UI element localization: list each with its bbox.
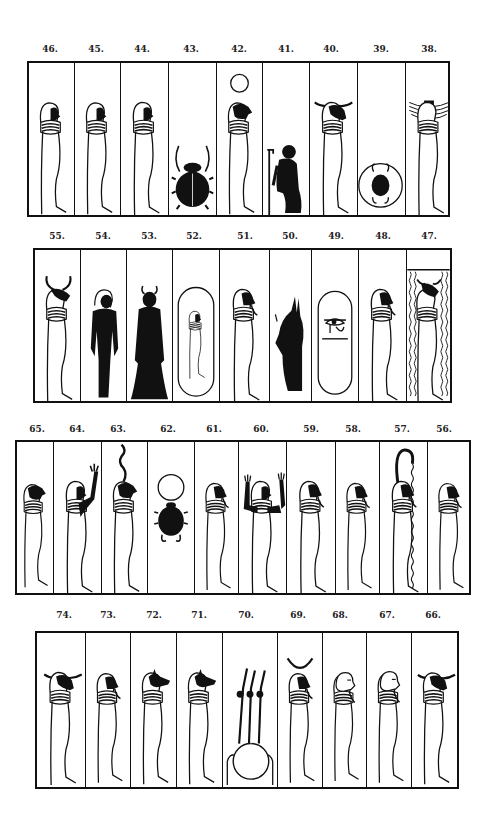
row-4-labels: 74. 73. 72. 71. 70. 69. 68. 67. 66. (0, 610, 490, 624)
standing-black-robed-figure-icon (127, 250, 172, 401)
figure-42 (217, 63, 263, 215)
figure-40 (310, 63, 358, 215)
figure-label: 62. (160, 424, 176, 434)
figure-label: 39. (373, 44, 389, 54)
arms-rising-from-disk-icon (223, 633, 277, 787)
row-1-labels: 46. 45. 44. 43. 42. 41. 40. 39. 38. (0, 44, 490, 58)
figure-label: 41. (278, 44, 294, 54)
mummy-falcon-sun-disk-icon (217, 63, 262, 215)
figure-38 (406, 63, 452, 215)
figure-71 (177, 633, 223, 787)
figure-label: 72. (146, 610, 162, 620)
figure-41 (263, 63, 310, 215)
figure-label: 48. (375, 231, 391, 241)
scarab-with-sun-disk-icon (148, 442, 194, 593)
figure-label: 43. (183, 44, 199, 54)
figure-57 (380, 442, 428, 593)
figure-52 (173, 250, 220, 401)
figure-row-4: 74. 73. 72. 71. 70. 69. 68. 67. 66. (0, 610, 490, 790)
figure-label: 45. (88, 44, 104, 54)
figure-58 (336, 442, 380, 593)
figure-44 (121, 63, 169, 215)
figure-70 (223, 633, 278, 787)
figure-label: 47. (421, 231, 437, 241)
figure-label: 70. (238, 610, 254, 620)
figure-51 (220, 250, 270, 401)
mummy-with-serpent-icon (380, 442, 427, 593)
figure-55 (35, 250, 81, 401)
row-3-frame (15, 440, 471, 595)
figure-label: 68. (332, 610, 348, 620)
figure-label: 55. (49, 231, 65, 241)
figure-label: 46. (42, 44, 58, 54)
figure-label: 61. (206, 424, 222, 434)
mummy-ram-horns-icon (310, 63, 357, 215)
mummy-jackal-head-icon (131, 633, 176, 787)
figure-74 (37, 633, 86, 787)
figure-label: 63. (110, 424, 126, 434)
row-3-labels: 65. 64. 63. 62. 61. 60. 59. 58. 57. 56. (0, 424, 490, 438)
figure-label: 42. (231, 44, 247, 54)
figure-label: 64. (69, 424, 85, 434)
figure-50 (270, 250, 312, 401)
mummy-winged-headdress-icon (406, 63, 452, 215)
standing-black-figure-icon (81, 250, 126, 401)
figure-label: 51. (237, 231, 253, 241)
figure-row-1: 46. 45. 44. 43. 42. 41. 40. 39. 38. (0, 44, 490, 219)
mummy-bearded-head-icon (86, 633, 130, 787)
figure-label: 57. (394, 424, 410, 434)
figure-60 (239, 442, 287, 593)
eye-in-cartouche-icon (312, 250, 358, 401)
figure-65 (17, 442, 54, 593)
row-2-labels: 55. 54. 53. 52. 51. 50. 49. 48. 47. (0, 231, 490, 245)
figure-72 (131, 633, 177, 787)
figure-46 (29, 63, 75, 215)
mummy-falcon-head-icon (17, 442, 53, 593)
figure-61 (195, 442, 239, 593)
figure-label: 40. (323, 44, 339, 54)
row-2-frame (33, 248, 452, 403)
mummy-bearded-head-icon (195, 442, 238, 593)
mummy-arms-raised-icon (239, 442, 286, 593)
figure-53 (127, 250, 173, 401)
figure-label: 52. (186, 231, 202, 241)
mummy-bearded-head-icon (220, 250, 269, 401)
mummy-crescent-crown-icon (278, 633, 322, 787)
figure-64 (54, 442, 102, 593)
figure-row-2: 55. 54. 53. 52. 51. 50. 49. 48. 47. (0, 231, 490, 406)
figure-49 (312, 250, 359, 401)
mummy-jackal-head-icon (177, 633, 222, 787)
figure-label: 73. (100, 610, 116, 620)
figure-43 (169, 63, 217, 215)
mummy-arm-raised-icon (54, 442, 101, 593)
figure-54 (81, 250, 127, 401)
figure-label: 65. (29, 424, 45, 434)
figure-48 (359, 250, 407, 401)
row-1-frame (27, 61, 450, 217)
figure-label: 49. (328, 231, 344, 241)
figure-47 (407, 250, 450, 401)
scarab-icon (169, 63, 216, 215)
figure-73 (86, 633, 131, 787)
figure-label: 53. (141, 231, 157, 241)
standing-black-jackal-icon (270, 250, 311, 401)
mummy-human-head-icon (121, 63, 168, 215)
scarab-in-disk-icon (358, 63, 405, 215)
figure-label: 67. (379, 610, 395, 620)
mummy-bald-head-icon (367, 633, 411, 787)
mummy-bearded-head-icon (428, 442, 469, 593)
figure-67 (367, 633, 412, 787)
mummy-bearded-head-icon (359, 250, 406, 401)
figure-label: 54. (95, 231, 111, 241)
figure-label: 38. (421, 44, 437, 54)
mummy-ram-horns-icon (412, 633, 457, 787)
mummy-in-water-icon (407, 250, 450, 401)
figure-68 (323, 633, 367, 787)
figure-label: 71. (191, 610, 207, 620)
figure-label: 60. (253, 424, 269, 434)
mummy-bull-horns-icon (35, 250, 80, 401)
figure-63 (102, 442, 148, 593)
figure-69 (278, 633, 323, 787)
figure-label: 56. (436, 424, 452, 434)
figure-label: 59. (303, 424, 319, 434)
